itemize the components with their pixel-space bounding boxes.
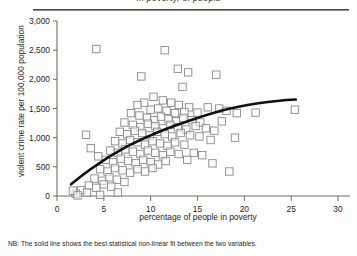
data-point — [179, 83, 186, 90]
data-point — [96, 165, 103, 172]
data-point — [211, 127, 218, 134]
data-point — [202, 125, 209, 132]
data-point — [136, 112, 143, 119]
data-point — [121, 119, 128, 126]
data-point — [96, 191, 103, 198]
data-point — [181, 141, 188, 148]
data-point — [144, 120, 151, 127]
data-point — [154, 105, 161, 112]
figure-container: in poverty, of people 05001,0001,5002,00… — [0, 0, 357, 256]
x-tick-label: 0 — [55, 204, 60, 212]
data-point — [209, 160, 216, 167]
data-point — [149, 137, 156, 144]
data-point — [117, 155, 124, 162]
data-point — [162, 157, 169, 164]
data-point — [167, 148, 174, 155]
y-axis-label: violent crime rate per 100,000 populatio… — [16, 13, 26, 189]
data-point — [184, 156, 191, 163]
x-tick-label: 5 — [101, 204, 106, 212]
data-point — [134, 101, 141, 108]
x-tick-label: 15 — [193, 204, 203, 212]
data-point — [233, 109, 240, 116]
data-point — [114, 189, 121, 196]
figure-note: NB: The solid line shows the best statis… — [8, 240, 257, 247]
y-tick-label: 500 — [36, 162, 50, 172]
data-point — [198, 151, 205, 158]
data-point — [113, 176, 120, 183]
data-point — [184, 69, 191, 76]
data-point — [100, 181, 107, 188]
x-axis-label: percentage of people in poverty — [57, 212, 339, 222]
data-point — [152, 149, 159, 156]
clipped-figure-title: in poverty, of people — [0, 0, 357, 3]
data-point — [157, 113, 164, 120]
data-point — [226, 168, 233, 175]
data-point — [83, 189, 90, 196]
data-point — [126, 169, 133, 176]
x-tick-label: 20 — [240, 204, 250, 212]
y-tick-label: 1,500 — [29, 104, 50, 114]
x-tick-label: 30 — [333, 204, 343, 212]
data-point — [175, 150, 182, 157]
data-point — [106, 174, 113, 181]
data-point — [116, 128, 123, 135]
x-tick-label: 10 — [146, 204, 156, 212]
data-point — [74, 192, 81, 199]
data-point — [192, 122, 199, 129]
data-point — [139, 129, 146, 136]
data-point — [207, 136, 214, 143]
data-point — [196, 133, 203, 140]
data-point — [141, 168, 148, 175]
data-point — [218, 118, 225, 125]
data-point — [177, 129, 184, 136]
data-point — [150, 93, 157, 100]
data-point — [119, 167, 126, 174]
y-tick-label: 1,000 — [29, 133, 50, 143]
data-point — [231, 134, 238, 141]
data-point — [180, 114, 187, 121]
y-tick-label: 3,000 — [29, 16, 50, 26]
data-point — [144, 147, 151, 154]
data-point — [159, 97, 166, 104]
data-point — [204, 104, 211, 111]
data-point — [93, 184, 100, 191]
scatter-plot: 05001,0001,5002,0002,5003,00005101520253… — [0, 12, 357, 212]
data-point — [87, 144, 94, 151]
data-point — [174, 65, 181, 72]
data-point — [168, 99, 175, 106]
data-point — [147, 106, 154, 113]
header-rule-shadow — [33, 10, 349, 11]
x-tick-label: 25 — [287, 204, 297, 212]
data-point — [171, 139, 178, 146]
data-point — [82, 131, 89, 138]
data-point — [139, 156, 146, 163]
data-point — [121, 178, 128, 185]
data-point — [85, 182, 92, 189]
data-point — [124, 157, 131, 164]
data-point — [291, 106, 298, 113]
data-point — [138, 73, 145, 80]
y-tick-label: 2,500 — [29, 45, 50, 55]
data-point — [93, 45, 100, 52]
data-point — [161, 46, 168, 53]
y-tick-label: 0 — [45, 191, 50, 201]
data-point — [252, 109, 259, 116]
data-point — [111, 137, 118, 144]
data-point — [111, 164, 118, 171]
data-point — [95, 153, 102, 160]
data-point — [190, 149, 197, 156]
data-point — [175, 101, 182, 108]
data-point — [127, 109, 134, 116]
data-point — [129, 148, 136, 155]
data-point — [186, 132, 193, 139]
data-point — [131, 127, 138, 134]
data-point — [149, 164, 156, 171]
data-point — [156, 140, 163, 147]
data-point — [134, 165, 141, 172]
data-point — [213, 71, 220, 78]
data-point — [194, 109, 201, 116]
y-tick-label: 2,000 — [29, 74, 50, 84]
data-point — [91, 175, 98, 182]
